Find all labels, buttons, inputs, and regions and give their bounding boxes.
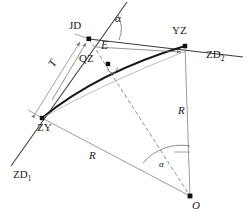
curve-guide-arc [42,51,186,118]
label-zd2: ZD2 [206,49,224,63]
label-o: O [192,200,200,211]
label-zd1: ZD1 [13,169,31,183]
label-e: E [101,40,108,52]
label-radius-right: R [178,105,185,116]
label-alpha-top: α [115,13,121,24]
label-radius-left: R [89,150,96,161]
diagram-canvas [0,0,248,219]
label-zy: ZY [37,122,52,133]
label-qz: QZ [79,53,94,64]
radius-left-line [42,118,190,196]
label-alpha-center: α [159,160,164,169]
label-zd1-text: ZD [13,168,28,180]
label-jd: JD [69,20,81,31]
radius-right-line [185,46,190,196]
label-zd2-text: ZD [206,48,221,60]
label-zd2-subscript: 2 [221,54,225,63]
point-jd [87,37,92,42]
point-zy [40,116,44,120]
central-angle-arc [143,145,190,163]
point-yz [183,44,187,48]
label-yz: YZ [172,25,187,36]
point-o [188,194,193,199]
label-zd1-subscript: 1 [28,174,32,183]
curve-diagram: JD α QZ E YZ ZY T R R α O ZD1 ZD2 [0,0,248,219]
point-qz [106,62,110,66]
